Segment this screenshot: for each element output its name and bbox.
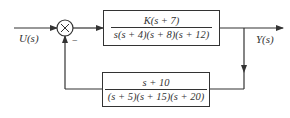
feedback-denominator: (s + 5)(s + 15)(s + 20): [105, 89, 208, 103]
input-label: U(s): [19, 32, 39, 44]
output-label: Y(s): [256, 33, 274, 45]
feedback-transfer-function-block: s + 10 (s + 5)(s + 15)(s + 20): [102, 72, 210, 107]
forward-denominator: s(s + 4)(s + 8)(s + 12): [111, 27, 212, 41]
forward-numerator: K(s + 7): [142, 15, 182, 27]
feedback-numerator: s + 10: [141, 77, 172, 89]
forward-transfer-function-block: K(s + 7) s(s + 4)(s + 8)(s + 12): [103, 10, 220, 46]
feedback-minus-sign: −: [72, 35, 78, 46]
